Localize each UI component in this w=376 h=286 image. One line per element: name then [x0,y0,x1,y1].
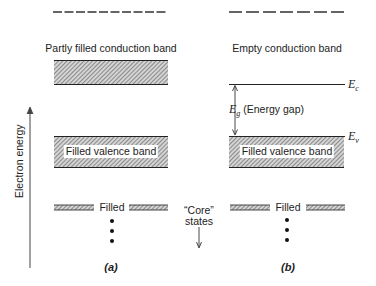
axis-arrow-head-icon [27,107,33,114]
caption-b: (b) [281,262,295,273]
electron-energy-axis [27,107,33,268]
core-band-label-b: Filled [275,202,300,213]
caption-a: (a) [104,262,117,273]
core-band-label-a: Filled [99,202,124,213]
core-states-label-line1: “Core” [184,205,214,216]
empty-conduction-band-label: Empty conduction band [232,43,342,54]
energy-gap-label: Eg (Energy gap) [229,103,304,118]
eg-text: (Energy gap) [243,103,304,115]
valence-band-label-a: Filled valence band [64,145,158,158]
core-states-label-line2: states [185,216,213,227]
ec-label: Ec [348,78,359,93]
ellipsis-dots-a [110,219,114,243]
valence-band-label-b: Filled valence band [240,145,334,158]
ev-subscript: v [355,136,359,145]
partly-filled-conduction-band-label: Partly filled conduction band [45,43,176,54]
ellipsis-dots-b [285,218,289,242]
eg-subscript: g [236,109,240,118]
conduction-band-a [54,60,168,85]
ev-label: Ev [348,130,359,145]
ec-subscript: c [355,84,359,93]
core-states-arrow [197,227,202,248]
electron-energy-axis-label: Electron energy [14,124,25,198]
